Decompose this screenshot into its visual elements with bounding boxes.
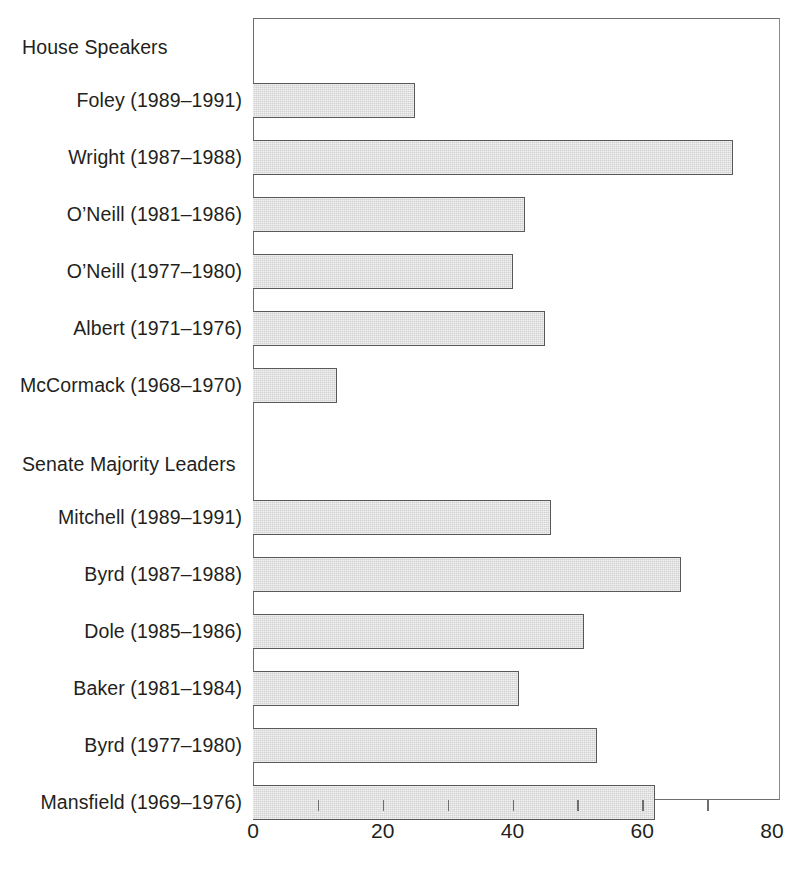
x-tick-20 [383, 800, 384, 811]
plot-area [253, 18, 780, 800]
bar-byrd-1977-1980 [253, 728, 597, 763]
x-tick-10 [318, 800, 319, 811]
category-label-column: House Speakers Foley (1989–1991) Wright … [0, 0, 242, 800]
bar-dole-1985-1986 [253, 614, 584, 649]
x-tick-50 [577, 800, 578, 811]
x-tick-70 [707, 800, 708, 811]
category-label-oneill-1981-1986: O’Neill (1981–1986) [0, 203, 242, 225]
category-label-baker-1981-1984: Baker (1981–1984) [0, 677, 242, 699]
category-label-mccormack-1968-1970: McCormack (1968–1970) [0, 374, 242, 396]
x-axis-ticks [253, 800, 780, 812]
category-label-oneill-1977-1980: O’Neill (1977–1980) [0, 260, 242, 282]
bar-oneill-1981-1986 [253, 197, 525, 232]
x-tick-label-80: 80 [760, 818, 783, 844]
category-label-byrd-1977-1980: Byrd (1977–1980) [0, 734, 242, 756]
group-label-house-speakers: House Speakers [22, 36, 168, 58]
category-label-dole-1985-1986: Dole (1985–1986) [0, 620, 242, 642]
category-label-byrd-1987-1988: Byrd (1987–1988) [0, 563, 242, 585]
x-tick-label-40: 40 [501, 818, 524, 844]
x-tick-label-0: 0 [247, 818, 259, 844]
category-label-foley-1989-1991: Foley (1989–1991) [0, 89, 242, 111]
bar-foley-1989-1991 [253, 83, 415, 118]
bar-mccormack-1968-1970 [253, 368, 337, 403]
bar-mitchell-1989-1991 [253, 500, 551, 535]
bar-byrd-1987-1988 [253, 557, 681, 592]
horizontal-bar-chart: House Speakers Foley (1989–1991) Wright … [0, 0, 794, 877]
category-label-albert-1971-1976: Albert (1971–1976) [0, 317, 242, 339]
category-label-mansfield-1969-1976: Mansfield (1969–1976) [0, 791, 242, 813]
x-tick-60 [642, 800, 643, 811]
x-tick-30 [448, 800, 449, 811]
bar-albert-1971-1976 [253, 311, 545, 346]
x-tick-label-60: 60 [631, 818, 654, 844]
bar-oneill-1977-1980 [253, 254, 513, 289]
category-label-wright-1987-1988: Wright (1987–1988) [0, 146, 242, 168]
bar-wright-1987-1988 [253, 140, 733, 175]
x-axis-tick-labels: 020406080 [0, 818, 794, 858]
x-tick-40 [513, 800, 514, 811]
bar-baker-1981-1984 [253, 671, 519, 706]
x-tick-label-20: 20 [371, 818, 394, 844]
category-label-mitchell-1989-1991: Mitchell (1989–1991) [0, 506, 242, 528]
group-label-senate-majority-leaders: Senate Majority Leaders [22, 453, 236, 475]
